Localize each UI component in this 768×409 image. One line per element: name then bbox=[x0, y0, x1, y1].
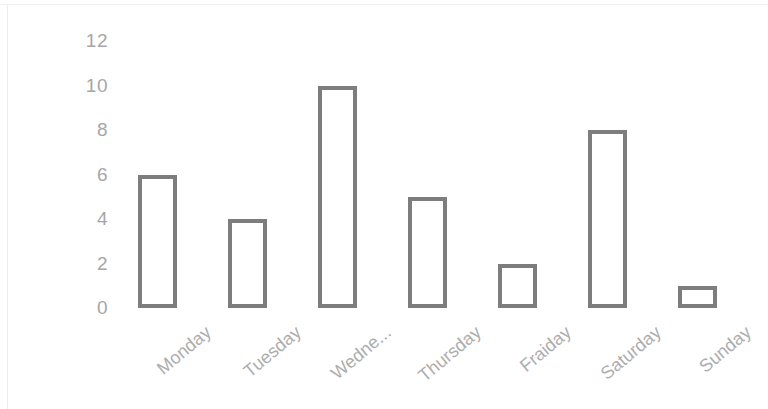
x-axis-tick-label: Wedne... bbox=[327, 322, 395, 384]
x-axis-tick-label: Monday bbox=[152, 322, 215, 379]
bar-chart: 121086420 MondayTuesdayWedne...ThursdayF… bbox=[0, 0, 768, 409]
x-axis-tick-label: Fraiday bbox=[516, 322, 575, 377]
x-axis: MondayTuesdayWedne...ThursdayFraidaySatu… bbox=[0, 0, 768, 409]
x-axis-tick-label: Tuesday bbox=[239, 322, 305, 382]
x-axis-tick-label: Sunday bbox=[695, 322, 755, 377]
x-axis-tick-label: Saturday bbox=[596, 322, 665, 384]
x-axis-tick-label: Thursday bbox=[414, 322, 485, 386]
